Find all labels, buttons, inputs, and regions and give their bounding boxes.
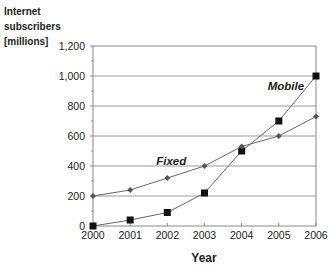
y-tick-label: 600 — [67, 130, 85, 142]
fixed-point — [164, 175, 170, 181]
fixed-point — [276, 133, 282, 139]
fixed-point — [90, 193, 96, 199]
x-tick-label: 2005 — [267, 229, 291, 241]
series-labels: MobileFixed — [156, 80, 305, 167]
series-fixed — [90, 114, 319, 200]
fixed-label: Fixed — [156, 155, 187, 167]
y-tick-label: 400 — [67, 160, 85, 172]
mobile-label: Mobile — [268, 80, 305, 92]
fixed-point — [313, 114, 319, 120]
fixed-point — [127, 187, 133, 193]
y-axis-title-line: [millions] — [4, 36, 48, 47]
series-mobile — [90, 73, 320, 230]
x-tick-label: 2002 — [156, 229, 180, 241]
x-tick-label: 2003 — [193, 229, 217, 241]
gridlines — [93, 76, 316, 196]
mobile-point — [275, 118, 282, 125]
y-axis-title: Internet subscribers [millions] — [4, 6, 61, 47]
x-tick-label: 2001 — [118, 229, 142, 241]
mobile-point — [164, 209, 171, 216]
fixed-point — [202, 163, 208, 169]
mobile-point — [90, 223, 97, 230]
y-tick-label: 1,000 — [59, 70, 85, 82]
chart: Internet subscribers [millions] 02004006… — [0, 0, 335, 276]
mobile-point — [127, 217, 134, 224]
x-axis-title: Year — [191, 251, 217, 265]
fixed-line — [93, 117, 316, 197]
mobile-line — [93, 76, 316, 226]
mobile-point — [313, 73, 320, 80]
y-tick-label: 200 — [67, 190, 85, 202]
y-axis-ticks: 02004006008001,0001,200 — [59, 40, 93, 232]
series-group — [90, 73, 320, 230]
mobile-point — [201, 190, 208, 197]
x-tick-label: 2006 — [304, 229, 328, 241]
y-axis-title-line: Internet — [4, 6, 41, 17]
y-axis-title-line: subscribers — [4, 21, 61, 32]
x-tick-label: 2004 — [230, 229, 254, 241]
y-tick-label: 800 — [67, 100, 85, 112]
y-tick-label: 1,200 — [59, 40, 85, 52]
x-tick-label: 2000 — [81, 229, 105, 241]
